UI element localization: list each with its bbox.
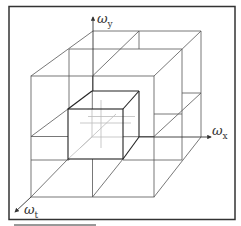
- omega-y-label: ωy: [97, 12, 113, 29]
- cube-diagram: [0, 0, 241, 226]
- omega-x-label: ωx: [212, 124, 228, 141]
- omega-t-label: ωt: [24, 203, 38, 220]
